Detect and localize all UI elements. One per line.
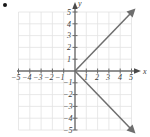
x-axis-arrow-icon — [134, 68, 141, 73]
y-axis — [72, 2, 77, 130]
x-tick-label-4: 4 — [118, 74, 122, 82]
x-tick-label--5: −5 — [11, 74, 20, 82]
x-tick-label--3: −3 — [33, 74, 42, 82]
ray-positive-slope — [75, 9, 136, 72]
x-tick-label--4: −4 — [22, 74, 31, 82]
y-tick-label-5: 5 — [67, 9, 71, 17]
graph-figure: −5 −4 −3 −2 −1 1 2 3 4 5 5 4 3 2 1 −1 −2… — [0, 0, 150, 137]
y-tick-label-3: 3 — [67, 32, 71, 40]
y-tick-label--3: −3 — [63, 103, 72, 111]
x-tick-label-3: 3 — [106, 74, 110, 82]
x-tick-label-2: 2 — [95, 74, 99, 82]
x-tick-label-5: 5 — [129, 74, 133, 82]
y-tick-label--1: −1 — [63, 79, 72, 87]
y-tick-label-4: 4 — [67, 21, 71, 29]
y-axis-label: y — [78, 0, 82, 8]
y-tick-label-2: 2 — [67, 44, 71, 52]
y-tick-label-1: 1 — [67, 56, 71, 64]
x-tick-label-1: 1 — [84, 74, 88, 82]
x-axis-label: x — [143, 68, 147, 76]
y-axis-arrow-icon — [72, 2, 77, 9]
y-tick-label--4: −4 — [63, 115, 72, 123]
x-tick-label--2: −2 — [44, 74, 53, 82]
coordinate-plane — [0, 0, 150, 137]
y-tick-label--5: −5 — [63, 127, 72, 135]
y-tick-label--2: −2 — [63, 91, 72, 99]
